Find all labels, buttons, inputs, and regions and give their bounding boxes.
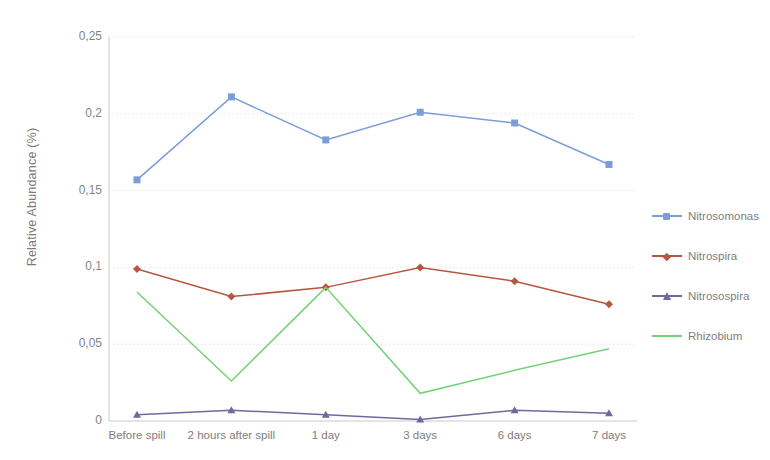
x-axis-tick-label: 7 days [592,430,626,442]
legend-label: Nitrospira [682,250,737,262]
data-point-marker [511,120,518,127]
data-point-marker [228,93,235,100]
series-line-nitrosomonas [137,97,609,180]
x-axis-tick-label: 3 days [403,430,437,442]
data-point-marker [134,176,141,183]
legend-item-rhizobium[interactable]: Rhizobium [652,316,770,356]
line-chart: Relative Abundance (%) 0,250,20,150,10,0… [0,0,770,460]
legend-label: Nitrosospira [682,290,749,302]
x-axis-tick-label: 1 day [312,430,340,442]
data-point-marker [322,136,329,143]
legend-key-icon [652,330,682,342]
legend-item-nitrosospira[interactable]: Nitrosospira [652,276,770,316]
data-point-marker [605,300,613,308]
legend-key-icon [652,210,682,222]
x-axis-tick-label: 2 hours after spill [188,430,276,442]
data-point-marker [133,265,141,273]
legend-label: Rhizobium [682,330,742,342]
x-axis-tick-label: 6 days [498,430,532,442]
data-point-marker [511,277,519,285]
legend-label: Nitrosomonas [682,210,759,222]
legend-key-icon [652,290,682,302]
x-axis-tick-label: Before spill [109,430,166,442]
data-point-marker [606,161,613,168]
series-line-rhizobium [137,287,609,393]
series-line-nitrosospira [137,410,609,419]
legend-item-nitrospira[interactable]: Nitrospira [652,236,770,276]
series-line-nitrospira [137,267,609,304]
legend-key-icon [652,250,682,262]
legend-item-nitrosomonas[interactable]: Nitrosomonas [652,196,770,236]
chart-legend: NitrosomonasNitrospiraNitrosospiraRhizob… [652,196,770,356]
data-point-marker [227,293,235,301]
data-point-marker [416,263,424,271]
data-point-marker [417,109,424,116]
